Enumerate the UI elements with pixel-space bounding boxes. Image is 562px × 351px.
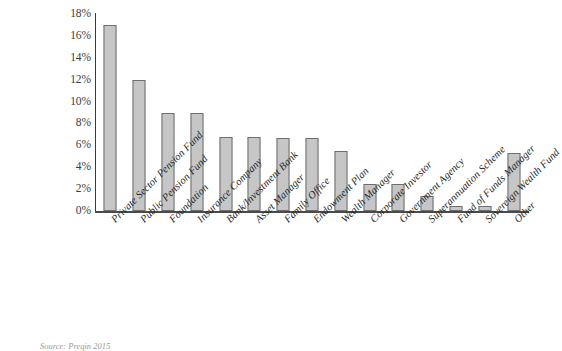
x-axis-category-labels: Private Sector Pension FundPublic Pensio… [96, 213, 528, 343]
x-axis-label-slot: Insurance Company [182, 213, 211, 343]
y-axis-tick-label: 14% [39, 52, 91, 64]
bar-slot [96, 14, 125, 211]
x-axis-label-slot: Asset Manager [240, 213, 269, 343]
y-axis-tick-label: 2% [39, 183, 91, 195]
x-axis-label-slot: Fund of Funds Manager [442, 213, 471, 343]
x-axis-label-slot: Government Agency [384, 213, 413, 343]
x-axis-label-slot: Corporate Investor [355, 213, 384, 343]
y-axis-tick-label: 16% [39, 30, 91, 42]
bar[interactable] [104, 25, 117, 211]
y-axis-tick-label: 0% [39, 205, 91, 217]
x-axis-label-slot: Sovereign Wealth Fund [470, 213, 499, 343]
x-axis-label-slot: Wealth Manager [326, 213, 355, 343]
y-axis-tick-label: 6% [39, 139, 91, 151]
source-note: Source: Preqin 2015 [40, 341, 110, 351]
x-axis-label-slot: Bank/Investment Bank [211, 213, 240, 343]
y-axis-tick-label: 10% [39, 96, 91, 108]
y-axis-tick-label: 18% [39, 8, 91, 20]
x-axis-label-slot: Other [499, 213, 528, 343]
x-axis-label-slot: Superannuation Scheme [413, 213, 442, 343]
x-axis-label-slot: Foundation [154, 213, 183, 343]
y-axis-tick-labels: 18%16%14%12%10%8%6%4%2%0% [36, 0, 91, 349]
y-axis-tick-label: 12% [39, 74, 91, 86]
x-axis-label-slot: Public Pension Fund [125, 213, 154, 343]
x-axis-label-slot: Private Sector Pension Fund [96, 213, 125, 343]
x-axis-label-slot: Family Office [269, 213, 298, 343]
y-axis-tick-label: 4% [39, 161, 91, 173]
y-axis-tick-label: 8% [39, 117, 91, 129]
x-axis-label-slot: Endowment Plan [298, 213, 327, 343]
